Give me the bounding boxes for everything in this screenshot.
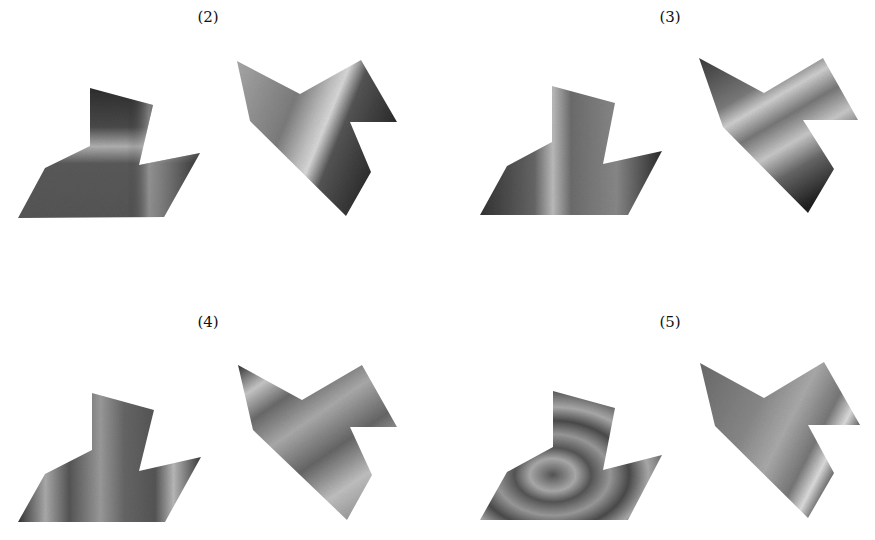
shapes-canvas [0, 0, 875, 540]
polygon-shape-left [480, 391, 662, 520]
polygon-shape-right [238, 365, 397, 520]
polygon-shape-right [700, 362, 860, 518]
polygon-shape-right [237, 60, 397, 216]
polygon-shape-right [699, 58, 858, 213]
panel-3 [480, 58, 858, 215]
polygon-shape-left [18, 88, 200, 218]
panel-4 [18, 365, 397, 522]
panel-5 [480, 362, 860, 520]
panel-2 [18, 60, 397, 218]
polygon-shape-left [18, 393, 201, 522]
polygon-shape-left [480, 86, 662, 215]
